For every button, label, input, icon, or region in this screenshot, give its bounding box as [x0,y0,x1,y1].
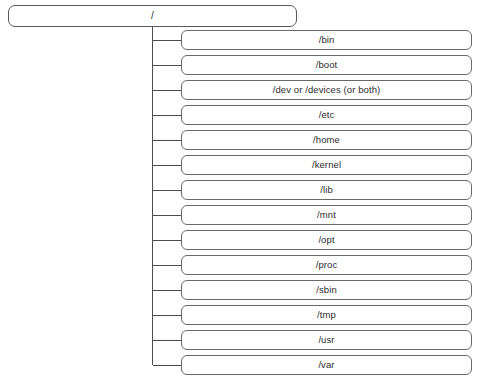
child-node-label: /var [318,360,334,370]
child-node[interactable]: /dev or /devices (or both) [181,80,472,100]
child-node-label: /etc [319,110,335,120]
child-node[interactable]: /usr [181,330,472,350]
child-node[interactable]: /mnt [181,205,472,225]
child-node-label: /bin [319,35,335,45]
child-node-label: /home [313,135,340,145]
child-row: /etc [181,105,472,125]
child-node[interactable]: /sbin [181,280,472,300]
child-row: /mnt [181,205,472,225]
child-node[interactable]: /proc [181,255,472,275]
child-node-label: /sbin [316,285,337,295]
child-row: /boot [181,55,472,75]
child-row: /bin [181,30,472,50]
child-row: /opt [181,230,472,250]
root-node[interactable]: / [8,5,297,27]
child-row: /home [181,130,472,150]
child-row: /usr [181,330,472,350]
root-node-label: / [151,11,154,21]
child-node-label: /usr [318,335,334,345]
child-node[interactable]: /etc [181,105,472,125]
child-node-label: /kernel [312,160,341,170]
child-node-label: /boot [316,60,338,70]
child-node-label: /dev or /devices (or both) [273,85,381,95]
child-row: /lib [181,180,472,200]
child-node-label: /mnt [317,210,336,220]
child-node-list: /bin/boot/dev or /devices (or both)/etc/… [181,30,472,375]
child-node-label: /opt [318,235,334,245]
child-node[interactable]: /tmp [181,305,472,325]
child-node[interactable]: /lib [181,180,472,200]
child-node[interactable]: /bin [181,30,472,50]
child-node-label: /lib [320,185,333,195]
child-node-label: /tmp [317,310,336,320]
child-row: /var [181,355,472,375]
filesystem-tree-diagram: / /bin/boot/dev or /devices (or both)/et… [0,0,478,388]
child-node[interactable]: /boot [181,55,472,75]
child-node[interactable]: /opt [181,230,472,250]
child-row: /dev or /devices (or both) [181,80,472,100]
child-row: /sbin [181,280,472,300]
child-node[interactable]: /kernel [181,155,472,175]
child-row: /kernel [181,155,472,175]
child-node[interactable]: /var [181,355,472,375]
child-node-label: /proc [316,260,338,270]
child-row: /proc [181,255,472,275]
child-row: /tmp [181,305,472,325]
child-node[interactable]: /home [181,130,472,150]
